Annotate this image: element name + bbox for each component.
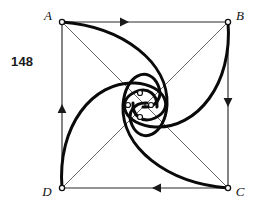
center-node-left	[126, 103, 131, 108]
vertex-label-C: C	[236, 184, 245, 199]
vertex-marker-D	[59, 185, 64, 190]
pinwheel-square-diagram: A B C D	[0, 0, 253, 209]
vertex-marker-B	[225, 19, 230, 24]
arrowhead-BC-down-icon	[224, 98, 233, 107]
arrowhead-AB-right-icon	[120, 18, 129, 27]
vertex-label-B: B	[236, 8, 244, 23]
center-node-bottom	[138, 115, 143, 120]
vertex-marker-C	[225, 185, 230, 190]
center-node-top	[138, 91, 143, 96]
vertex-label-A: A	[43, 8, 52, 23]
arrowhead-CD-left-icon	[152, 184, 161, 193]
center-node-right	[149, 103, 154, 108]
vertex-marker-A	[59, 19, 64, 24]
arrowhead-DA-up-icon	[58, 104, 67, 113]
figure-148-container: 148	[0, 0, 253, 209]
vertex-label-D: D	[41, 184, 52, 199]
